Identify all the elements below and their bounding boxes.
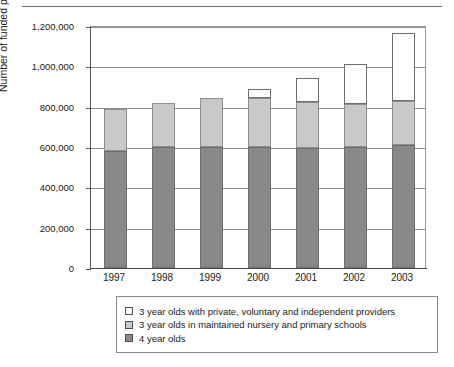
gridline: [91, 27, 425, 28]
y-axis-tick: [86, 67, 91, 68]
y-axis-tick-label: 600,000: [40, 142, 74, 153]
bar-segment[interactable]: [104, 151, 127, 268]
bar-segment[interactable]: [344, 147, 367, 268]
bar-segment[interactable]: [296, 148, 319, 268]
legend-label: 4 year olds: [139, 333, 185, 344]
y-axis-tick: [86, 269, 91, 270]
x-axis-tick-label: 1999: [187, 272, 233, 283]
y-axis-tick-label: 800,000: [40, 101, 74, 112]
legend-item: 4 year olds: [125, 333, 429, 344]
x-axis-tick-label: 1998: [139, 272, 185, 283]
x-axis-tick-label: 2002: [331, 272, 377, 283]
bar-segment[interactable]: [296, 78, 319, 101]
y-axis-tick: [86, 27, 91, 28]
bar-segment[interactable]: [344, 104, 367, 147]
legend-label: 3 year olds with private, voluntary and …: [139, 306, 395, 317]
x-axis-baseline: [90, 268, 427, 269]
y-axis-tick-label: 200,000: [40, 222, 74, 233]
legend-item: 3 year olds in maintained nursery and pr…: [125, 319, 429, 330]
bar-segment[interactable]: [152, 147, 175, 268]
legend-swatch-4yo-icon: [125, 334, 133, 342]
bar-segment[interactable]: [248, 147, 271, 268]
bar-segment[interactable]: [104, 109, 127, 151]
y-axis-tick-label: 1,200,000: [32, 21, 74, 32]
top-divider-rule: [22, 6, 442, 7]
x-axis-tick-label: 2001: [283, 272, 329, 283]
legend-swatch-3yo-private-icon: [125, 307, 133, 315]
x-axis-tick-label: 1997: [91, 272, 137, 283]
x-axis-tick-label: 2000: [235, 272, 281, 283]
x-axis-tick-labels: 1997199819992000200120022003: [90, 272, 426, 288]
x-axis-tick-label: 2003: [379, 272, 425, 283]
bar-segment[interactable]: [296, 102, 319, 148]
y-axis-tick: [86, 148, 91, 149]
y-axis-tick: [86, 229, 91, 230]
chart-legend: 3 year olds with private, voluntary and …: [116, 296, 438, 353]
bar-segment[interactable]: [392, 101, 415, 145]
bar-segment[interactable]: [200, 98, 223, 147]
gridline: [91, 67, 425, 68]
legend-label: 3 year olds in maintained nursery and pr…: [139, 319, 367, 330]
y-axis-tick: [86, 188, 91, 189]
bar-segment[interactable]: [248, 98, 271, 147]
y-axis-tick: [86, 108, 91, 109]
y-axis-tick-labels: 0200,000400,000600,000800,0001,000,0001,…: [0, 26, 84, 268]
legend-item: 3 year olds with private, voluntary and …: [125, 306, 429, 317]
y-axis-tick-label: 400,000: [40, 182, 74, 193]
chart-figure: Number of funded places 0200,000400,0006…: [0, 0, 454, 367]
legend-swatch-3yo-maintained-icon: [125, 321, 133, 329]
bar-segment[interactable]: [344, 64, 367, 103]
y-axis-tick-label: 0: [69, 263, 74, 274]
y-axis-tick-label: 1,000,000: [32, 61, 74, 72]
bar-segment[interactable]: [392, 33, 415, 101]
bar-segment[interactable]: [392, 145, 415, 268]
bar-segment[interactable]: [152, 103, 175, 147]
bar-segment[interactable]: [248, 89, 271, 98]
bar-segment[interactable]: [200, 147, 223, 268]
plot-area: [90, 26, 426, 268]
